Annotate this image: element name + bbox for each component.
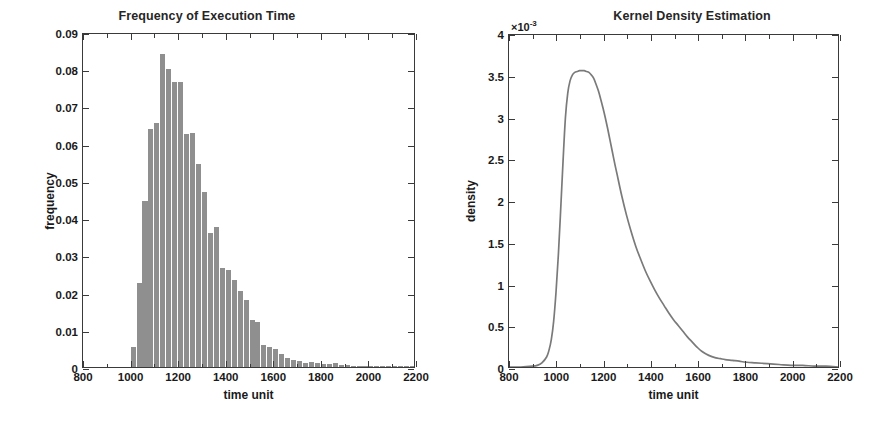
ytick bbox=[83, 295, 89, 296]
right-axes: 800100012001400160018002000220000.511.52… bbox=[508, 34, 839, 368]
exponent-base: ×10 bbox=[511, 21, 530, 33]
left-xaxis-title: time unit bbox=[224, 388, 274, 402]
xtick-label: 1200 bbox=[165, 371, 191, 383]
ytick bbox=[83, 183, 89, 184]
ytick bbox=[509, 286, 515, 287]
xtick-top bbox=[131, 34, 132, 40]
xtick-label: 2200 bbox=[403, 371, 429, 383]
xtick-top bbox=[698, 35, 699, 41]
histogram-bar bbox=[166, 69, 171, 367]
xtick bbox=[509, 361, 510, 367]
histogram-figure: Frequency of Execution Time 800100012001… bbox=[0, 0, 442, 434]
kde-figure: Kernel Density Estimation 80010001200140… bbox=[441, 0, 883, 434]
xtick-minor bbox=[202, 34, 203, 38]
histogram-bar bbox=[398, 366, 403, 367]
xtick bbox=[83, 361, 84, 367]
ytick-label: 0.07 bbox=[56, 102, 78, 114]
xtick bbox=[368, 361, 369, 367]
xtick-minor bbox=[107, 34, 108, 38]
ytick-right bbox=[832, 369, 838, 370]
ytick-right bbox=[408, 71, 414, 72]
xtick bbox=[793, 361, 794, 367]
ytick-label: 0.04 bbox=[56, 214, 78, 226]
ytick-label: 0.06 bbox=[56, 140, 78, 152]
ytick bbox=[83, 71, 89, 72]
xtick-minor bbox=[675, 35, 676, 39]
histogram-bar bbox=[374, 366, 379, 367]
xtick-label: 1600 bbox=[260, 371, 286, 383]
ytick bbox=[509, 202, 515, 203]
xtick bbox=[416, 361, 417, 367]
histogram-bar bbox=[184, 134, 189, 367]
ytick-right bbox=[408, 257, 414, 258]
histogram-bar bbox=[238, 291, 243, 367]
xtick-label: 2000 bbox=[780, 371, 806, 383]
ytick-label: 3.5 bbox=[488, 71, 504, 83]
xtick bbox=[698, 361, 699, 367]
histogram-bar bbox=[261, 345, 266, 367]
xtick-top bbox=[556, 35, 557, 41]
histogram-bar bbox=[303, 363, 308, 367]
histogram-bar bbox=[351, 366, 356, 367]
xtick bbox=[131, 361, 132, 367]
ytick bbox=[509, 369, 515, 370]
histogram-bar bbox=[291, 360, 296, 367]
histogram-bar bbox=[327, 364, 332, 367]
xtick-minor bbox=[675, 364, 676, 368]
left-yaxis-title: frequency bbox=[43, 172, 57, 229]
ytick-right bbox=[408, 146, 414, 147]
left-axes: 800100012001400160018002000220000.010.02… bbox=[82, 33, 415, 368]
histogram-bar bbox=[255, 322, 260, 367]
histogram-bar bbox=[226, 270, 231, 367]
ytick-right bbox=[832, 286, 838, 287]
ytick-right bbox=[832, 119, 838, 120]
ytick-label: 0.03 bbox=[56, 251, 78, 263]
histogram-bar bbox=[202, 192, 207, 367]
xtick-minor bbox=[250, 364, 251, 368]
ytick-label: 0.08 bbox=[56, 65, 78, 77]
xtick-top bbox=[840, 35, 841, 41]
left-plot-title: Frequency of Execution Time bbox=[0, 9, 428, 23]
histogram-bar bbox=[137, 283, 142, 367]
xtick-label: 1400 bbox=[213, 371, 239, 383]
xtick-label: 1000 bbox=[118, 371, 144, 383]
ytick-label: 1.5 bbox=[488, 238, 504, 250]
ytick-label: 2.5 bbox=[488, 154, 504, 166]
histogram-bar bbox=[410, 366, 414, 367]
xtick-minor bbox=[297, 34, 298, 38]
ytick bbox=[509, 160, 515, 161]
xtick-minor bbox=[202, 364, 203, 368]
ytick bbox=[509, 244, 515, 245]
ytick bbox=[509, 327, 515, 328]
kde-curve bbox=[509, 35, 838, 367]
ytick-label: 2 bbox=[498, 196, 504, 208]
xtick bbox=[745, 361, 746, 367]
ytick bbox=[509, 77, 515, 78]
histogram-bar bbox=[279, 354, 284, 367]
ytick bbox=[83, 34, 89, 35]
ytick bbox=[83, 220, 89, 221]
xtick-top bbox=[273, 34, 274, 40]
ytick-label: 0.02 bbox=[56, 289, 78, 301]
xtick-minor bbox=[154, 34, 155, 38]
right-xaxis-title: time unit bbox=[649, 388, 699, 402]
ytick-right bbox=[832, 160, 838, 161]
ytick-right bbox=[408, 108, 414, 109]
ytick bbox=[83, 108, 89, 109]
exponent-power: -3 bbox=[530, 19, 537, 28]
ytick-label: 0 bbox=[498, 363, 504, 375]
ytick-right bbox=[408, 220, 414, 221]
ytick-right bbox=[408, 183, 414, 184]
xtick-label: 1800 bbox=[308, 371, 334, 383]
ytick-label: 0.05 bbox=[56, 177, 78, 189]
kde-density-line bbox=[509, 71, 838, 367]
xtick-minor bbox=[392, 364, 393, 368]
ytick bbox=[83, 332, 89, 333]
xtick-minor bbox=[769, 35, 770, 39]
xtick bbox=[840, 361, 841, 367]
ytick-right bbox=[832, 244, 838, 245]
ytick-right bbox=[408, 34, 414, 35]
kde-plot-area bbox=[509, 35, 838, 367]
xtick bbox=[604, 361, 605, 367]
histogram-bar bbox=[380, 366, 385, 367]
